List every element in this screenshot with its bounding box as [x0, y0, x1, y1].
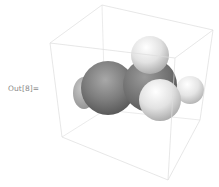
molecule-3d-graphic[interactable]: [0, 0, 219, 187]
molecule: [73, 36, 204, 121]
